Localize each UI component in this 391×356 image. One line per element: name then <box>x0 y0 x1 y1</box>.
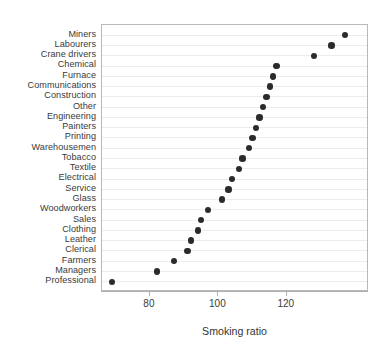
category-label-sales: Sales <box>0 215 96 224</box>
category-label-construction: Construction <box>0 91 96 100</box>
category-label-tobacco: Tobacco <box>0 153 96 162</box>
data-point <box>239 155 245 161</box>
category-label-crane-drivers: Crane drivers <box>0 50 96 59</box>
data-point <box>198 217 204 223</box>
data-point <box>328 42 334 48</box>
category-label-chemical: Chemical <box>0 60 96 69</box>
data-point <box>236 166 242 172</box>
gridline <box>102 127 367 128</box>
data-point <box>195 227 201 233</box>
category-label-other: Other <box>0 102 96 111</box>
category-label-clerical: Clerical <box>0 245 96 254</box>
gridline <box>102 55 367 56</box>
gridline <box>102 35 367 36</box>
gridline <box>102 66 367 67</box>
gridline <box>102 137 367 138</box>
category-label-engineering: Engineering <box>0 112 96 121</box>
data-point <box>246 145 252 151</box>
x-tick <box>149 291 150 296</box>
gridline <box>102 117 367 118</box>
data-point <box>219 196 225 202</box>
gridline <box>102 107 367 108</box>
category-label-managers: Managers <box>0 266 96 275</box>
data-point <box>267 83 273 89</box>
plot-panel <box>101 24 368 291</box>
dot-plot-chart: MinersLabourersCrane driversChemicalFurn… <box>0 0 391 356</box>
data-point <box>253 125 259 131</box>
data-point <box>249 135 255 141</box>
category-label-woodworkers: Woodworkers <box>0 204 96 213</box>
data-point <box>225 186 231 192</box>
data-point <box>311 53 317 59</box>
x-tick-label: 120 <box>266 298 306 309</box>
category-axis: MinersLabourersCrane driversChemicalFurn… <box>0 26 96 288</box>
category-label-professional: Professional <box>0 276 96 285</box>
gridline <box>102 148 367 149</box>
gridline <box>102 96 367 97</box>
gridline <box>102 86 367 87</box>
gridline <box>102 271 367 272</box>
x-axis-title: Smoking ratio <box>101 325 368 337</box>
data-point <box>205 207 211 213</box>
category-label-glass: Glass <box>0 194 96 203</box>
x-axis-line <box>101 291 368 292</box>
data-point <box>270 73 276 79</box>
category-label-warehousemen: Warehousemen <box>0 143 96 152</box>
category-label-leather: Leather <box>0 235 96 244</box>
category-label-farmers: Farmers <box>0 256 96 265</box>
category-label-electrical: Electrical <box>0 173 96 182</box>
gridline <box>102 261 367 262</box>
gridline <box>102 230 367 231</box>
x-axis: 80100120 <box>101 291 368 321</box>
gridline <box>102 199 367 200</box>
gridline <box>102 168 367 169</box>
gridline <box>102 250 367 251</box>
gridline <box>102 158 367 159</box>
category-label-painters: Painters <box>0 122 96 131</box>
data-point <box>184 248 190 254</box>
category-label-printing: Printing <box>0 132 96 141</box>
gridline <box>102 220 367 221</box>
data-point <box>109 279 115 285</box>
data-point <box>154 268 160 274</box>
category-label-clothing: Clothing <box>0 225 96 234</box>
category-label-textile: Textile <box>0 163 96 172</box>
category-label-furnace: Furnace <box>0 71 96 80</box>
category-label-labourers: Labourers <box>0 40 96 49</box>
data-point <box>260 104 266 110</box>
category-label-communications: Communications <box>0 81 96 90</box>
gridline <box>102 240 367 241</box>
x-tick <box>217 291 218 296</box>
data-point <box>263 94 269 100</box>
gridline <box>102 281 367 282</box>
category-label-miners: Miners <box>0 30 96 39</box>
gridline <box>102 189 367 190</box>
gridline <box>102 209 367 210</box>
category-label-service: Service <box>0 184 96 193</box>
x-tick-label: 100 <box>197 298 237 309</box>
data-point <box>273 63 279 69</box>
data-point <box>188 237 194 243</box>
data-point <box>171 258 177 264</box>
x-tick <box>286 291 287 296</box>
gridline <box>102 76 367 77</box>
x-tick-label: 80 <box>129 298 169 309</box>
data-point <box>229 176 235 182</box>
data-point <box>342 32 348 38</box>
data-point <box>256 114 262 120</box>
